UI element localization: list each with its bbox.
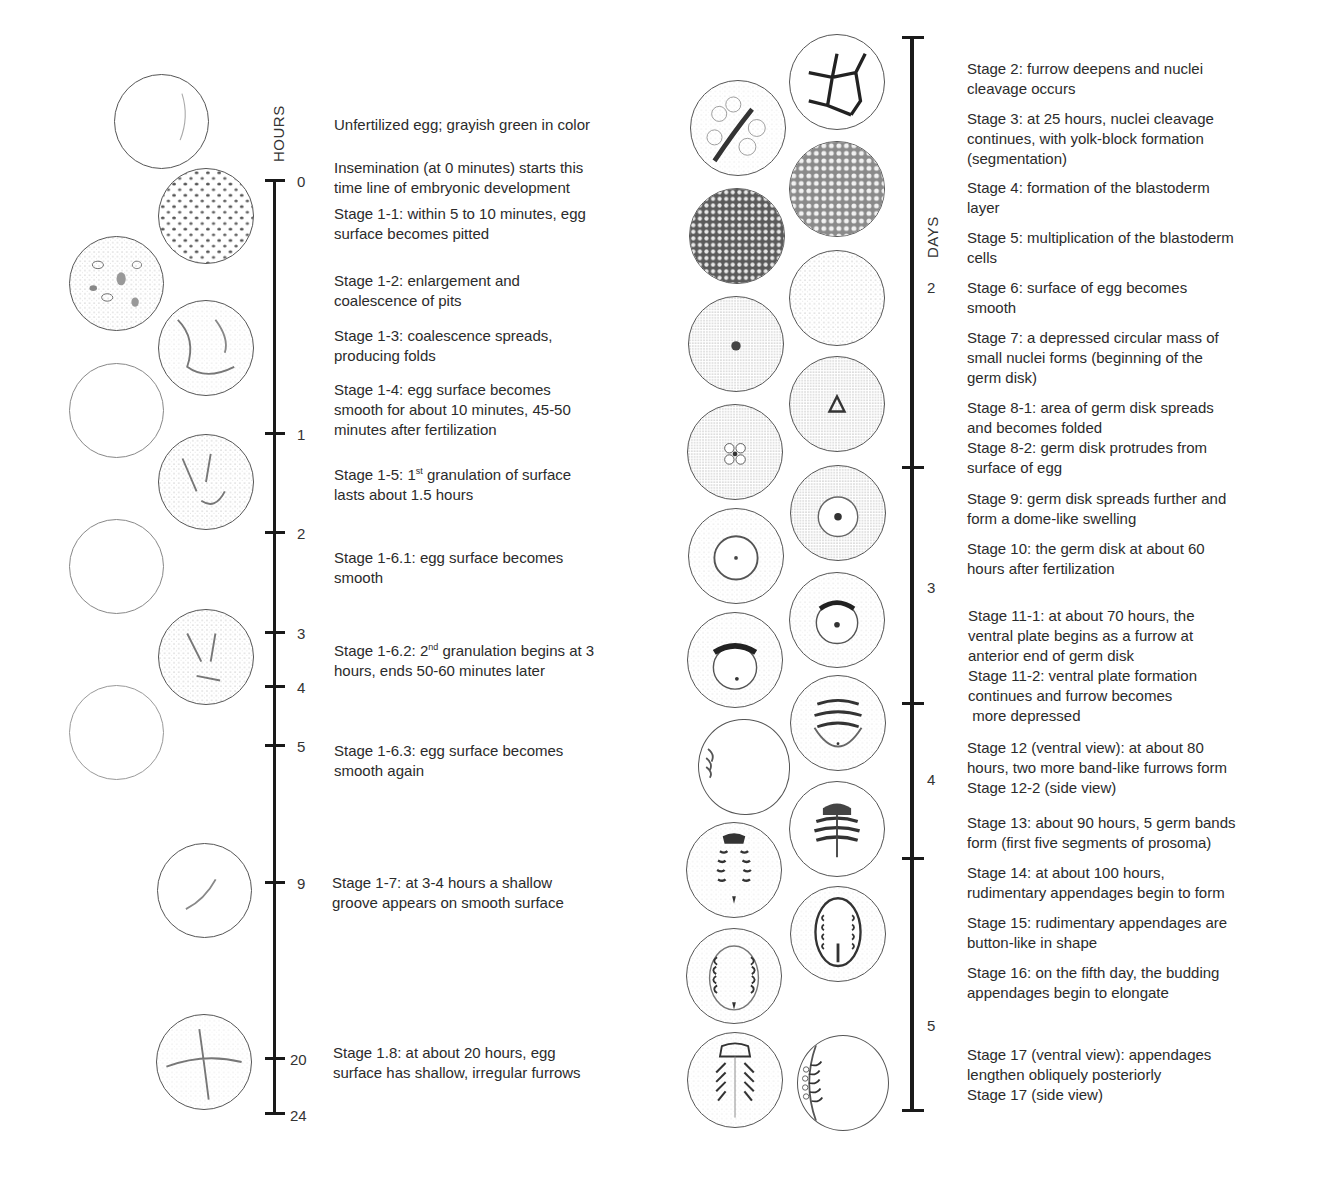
desc-line: and becomes folded [967, 418, 1214, 438]
desc-stage-1-6-3: Stage 1-6.3: egg surface becomes smooth … [334, 741, 563, 781]
desc-stage-10: Stage 10: the germ disk at about 60 hour… [967, 539, 1205, 579]
egg-unfertilized [114, 74, 209, 169]
hours-tick [265, 631, 285, 634]
desc-line: Stage 17 (ventral view): appendages [967, 1045, 1211, 1065]
desc-line: form (first five segments of prosoma) [967, 833, 1236, 853]
desc-line: cells [967, 248, 1234, 268]
desc-insemination: Insemination (at 0 minutes) starts this … [334, 158, 583, 198]
desc-line: smooth [334, 568, 563, 588]
desc-line: surface of egg [967, 458, 1214, 478]
egg-stage-8-1-folded [789, 356, 885, 452]
desc-line: layer [967, 198, 1210, 218]
days-tick [902, 466, 924, 469]
desc-stage-6: Stage 6: surface of egg becomes smooth [967, 278, 1187, 318]
egg-stage-11-1-ventral-plate [789, 572, 885, 668]
days-axis-line [910, 37, 914, 1111]
desc-stage-1-1: Stage 1-1: within 5 to 10 minutes, egg s… [334, 204, 586, 244]
desc-stage-17: Stage 17 (ventral view): appendages leng… [967, 1045, 1211, 1105]
desc-line: Unfertilized egg; grayish green in color [334, 115, 590, 135]
hours-tick [265, 531, 285, 534]
egg-stage-14-appendages-form [686, 822, 782, 918]
hours-tick-label: 1 [297, 427, 305, 442]
egg-stage-1-3-folds [158, 300, 254, 396]
desc-line: cleavage occurs [967, 79, 1203, 99]
desc-line: minutes after fertilization [334, 420, 571, 440]
hours-tick [265, 881, 285, 884]
desc-line: surface has shallow, irregular furrows [333, 1063, 581, 1083]
hours-axis-bottom-cap [265, 1112, 285, 1115]
days-axis-title: DAYS [924, 216, 941, 258]
desc-line: button-like in shape [967, 933, 1227, 953]
desc-line: Stage 15: rudimentary appendages are [967, 913, 1227, 933]
desc-text: Stage 1-6.2: 2 [334, 642, 428, 659]
egg-stage-10-germ-disk [688, 508, 784, 604]
desc-line: coalescence of pits [334, 291, 520, 311]
desc-line: groove appears on smooth surface [332, 893, 564, 913]
desc-line: smooth for about 10 minutes, 45-50 [334, 400, 571, 420]
desc-stage-1-7: Stage 1-7: at 3-4 hours a shallow groove… [332, 873, 564, 913]
egg-stage-1-5-granulation [158, 434, 254, 530]
desc-stage-16: Stage 16: on the fifth day, the budding … [967, 963, 1219, 1003]
desc-line: surface becomes pitted [334, 224, 586, 244]
days-tick-label: 4 [927, 772, 935, 787]
desc-stage-14: Stage 14: at about 100 hours, rudimentar… [967, 863, 1225, 903]
desc-stage-1-4: Stage 1-4: egg surface becomes smooth fo… [334, 380, 571, 440]
hours-tick [265, 685, 285, 688]
desc-stage-1-3: Stage 1-3: coalescence spreads, producin… [334, 326, 552, 366]
desc-line: rudimentary appendages begin to form [967, 883, 1225, 903]
egg-stage-1-2-pits-enlarged [69, 236, 164, 331]
desc-line: Stage 5: multiplication of the blastoder… [967, 228, 1234, 248]
desc-stage-4: Stage 4: formation of the blastoderm lay… [967, 178, 1210, 218]
days-tick-label: 2 [927, 280, 935, 295]
desc-line: (segmentation) [967, 149, 1214, 169]
hours-tick-label: 2 [297, 526, 305, 541]
desc-stage-13: Stage 13: about 90 hours, 5 germ bands f… [967, 813, 1236, 853]
desc-stage-2: Stage 2: furrow deepens and nuclei cleav… [967, 59, 1203, 99]
egg-stage-15-button-like [790, 886, 886, 982]
desc-line: Stage 10: the germ disk at about 60 [967, 539, 1205, 559]
desc-line: Stage 8-2: germ disk protrudes from [967, 438, 1214, 458]
desc-unfertilized: Unfertilized egg; grayish green in color [334, 115, 590, 135]
egg-stage-12-ventral [790, 675, 886, 771]
desc-text: granulation begins at 3 [438, 642, 594, 659]
hours-tick-label: 24 [290, 1108, 307, 1123]
desc-line: producing folds [334, 346, 552, 366]
egg-stage-3-yolk-blocks [789, 34, 885, 130]
desc-line: Stage 13: about 90 hours, 5 germ bands [967, 813, 1236, 833]
hours-tick [265, 432, 285, 435]
desc-line: Stage 9: germ disk spreads further and [967, 489, 1226, 509]
egg-stage-17-side [797, 1035, 889, 1131]
desc-line: form a dome-like swelling [967, 509, 1226, 529]
desc-line: time line of embryonic development [334, 178, 583, 198]
egg-stage-17-ventral [687, 1032, 783, 1128]
egg-stage-7-nuclei-mass [688, 296, 784, 392]
desc-line: Stage 1.8: at about 20 hours, egg [333, 1043, 581, 1063]
egg-stage-8-2-protrudes [687, 404, 783, 500]
desc-line: Stage 1-5: 1st granulation of surface [334, 465, 571, 485]
egg-stage-1-6-2-granulation [158, 609, 254, 705]
desc-stage-12: Stage 12 (ventral view): at about 80 hou… [967, 738, 1227, 798]
desc-text: Stage 1-5: 1 [334, 466, 416, 483]
desc-line: appendages begin to elongate [967, 983, 1219, 1003]
hours-tick-label: 9 [297, 876, 305, 891]
desc-line: Stage 17 (side view) [967, 1085, 1211, 1105]
egg-stage-16-elongate [686, 928, 782, 1024]
desc-line: lengthen obliquely posteriorly [967, 1065, 1211, 1085]
hours-tick [265, 744, 285, 747]
egg-stage-4-blastoderm [689, 188, 785, 284]
days-tick [902, 857, 924, 860]
desc-line: Stage 12 (ventral view): at about 80 [967, 738, 1227, 758]
desc-line: Stage 1-4: egg surface becomes [334, 380, 571, 400]
hours-tick-label: 3 [297, 626, 305, 641]
desc-line: Stage 3: at 25 hours, nuclei cleavage [967, 109, 1214, 129]
desc-line: Stage 6: surface of egg becomes [967, 278, 1187, 298]
days-axis-top-cap [902, 36, 924, 39]
desc-line: Stage 1-6.1: egg surface becomes [334, 548, 563, 568]
desc-line: small nuclei forms (beginning of the [967, 348, 1219, 368]
desc-line: smooth [967, 298, 1187, 318]
desc-line: Stage 1-1: within 5 to 10 minutes, egg [334, 204, 586, 224]
desc-stage-15: Stage 15: rudimentary appendages are but… [967, 913, 1227, 953]
hours-tick-label: 5 [297, 739, 305, 754]
desc-line: lasts about 1.5 hours [334, 485, 571, 505]
desc-stage-3: Stage 3: at 25 hours, nuclei cleavage co… [967, 109, 1214, 169]
